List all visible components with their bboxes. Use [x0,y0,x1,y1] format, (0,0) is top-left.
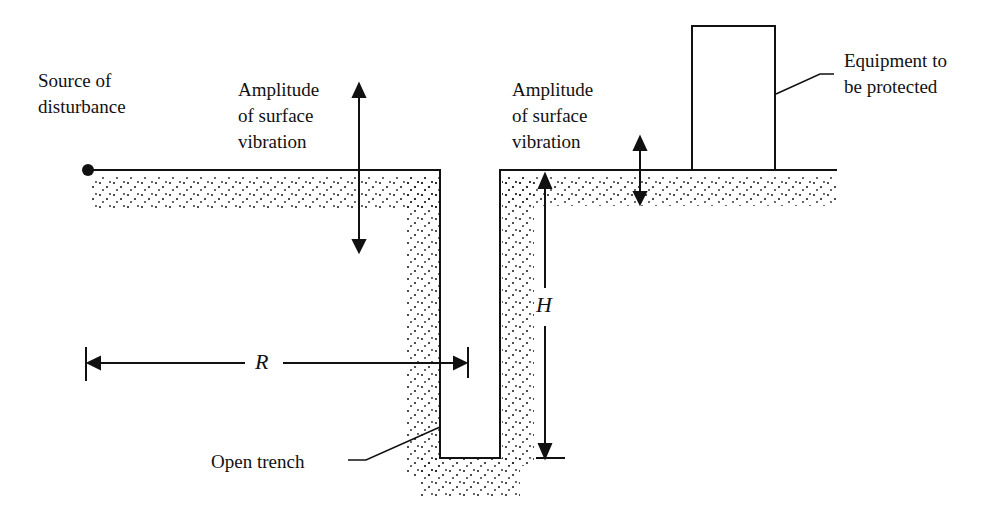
amplitude-right-label: Amplitude of surface vibration [512,77,593,155]
ground-left [88,170,837,458]
equipment-leader [776,74,834,94]
equipment-box [692,26,775,170]
soil-stipple [92,176,837,496]
amplitude-arrow-left [353,84,365,252]
source-point [82,164,94,176]
equipment-label: Equipment to be protected [844,48,947,100]
amplitude-left-label: Amplitude of surface vibration [238,77,319,155]
trench-isolation-diagram: Source of disturbance Amplitude of surfa… [0,0,1008,516]
H-label: H [536,292,552,318]
source-label: Source of disturbance [38,68,126,120]
R-label: R [255,349,268,375]
trench-label: Open trench [211,449,304,475]
